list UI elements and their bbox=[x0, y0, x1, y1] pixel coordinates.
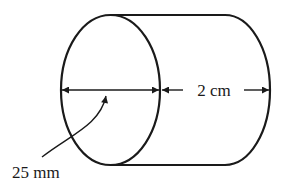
diameter-leader-arrow bbox=[42, 96, 106, 157]
cylinder-diagram: 2 cm 25 mm bbox=[0, 0, 283, 183]
diameter-label: 25 mm bbox=[12, 163, 60, 182]
length-label: 2 cm bbox=[197, 81, 231, 100]
